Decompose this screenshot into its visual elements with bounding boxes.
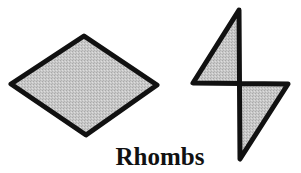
vertical-rhombus-shape — [193, 10, 288, 159]
diagram-caption: Rhombs — [100, 143, 220, 171]
horizontal-rhombus-shape — [11, 36, 157, 135]
